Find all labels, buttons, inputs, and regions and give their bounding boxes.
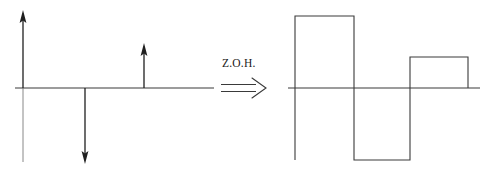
output-pulse-1	[295, 16, 354, 88]
output-pulse-2	[354, 88, 410, 160]
zoh-diagram-canvas	[0, 0, 490, 177]
output-staircase-plot	[288, 16, 480, 160]
input-stem-1	[20, 10, 27, 162]
zoh-operator-arrow	[221, 78, 266, 98]
zoh-arrow-head	[252, 78, 266, 98]
zoh-operator-label: Z.O.H.	[222, 57, 255, 69]
input-impulse-train-plot	[15, 10, 214, 164]
input-stem-2	[82, 88, 89, 164]
figure-root: Z.O.H.	[0, 0, 490, 177]
input-stem-3	[141, 43, 148, 88]
output-pulse-3	[410, 57, 468, 88]
